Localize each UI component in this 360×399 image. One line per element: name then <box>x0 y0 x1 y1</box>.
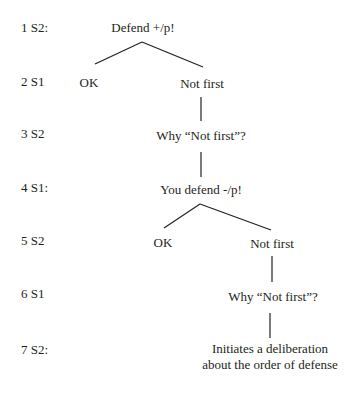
node-ok-2: OK <box>154 235 173 251</box>
node-why-not-first-1: Why “Not first”? <box>156 128 246 144</box>
edge-n1-n2b <box>142 42 203 67</box>
edge-n4-n5b <box>200 204 271 230</box>
row-label-2: 2 S1 <box>21 74 44 90</box>
row-label-6: 6 S1 <box>21 286 44 302</box>
row-label-7: 7 S2: <box>21 342 48 358</box>
node-ok-1: OK <box>80 75 99 91</box>
node-defend-p: Defend +/p! <box>111 20 174 36</box>
node-you-defend-p: You defend -/p! <box>160 182 242 198</box>
node-initiates-line-2: about the order of defense <box>202 357 338 373</box>
node-why-not-first-2: Why “Not first”? <box>228 289 318 305</box>
dialogue-tree-diagram: 1 S2: 2 S1 3 S2 4 S1: 5 S2 6 S1 7 S2: De… <box>0 0 360 399</box>
edge-n4-n5a <box>164 204 200 228</box>
row-label-5: 5 S2 <box>21 233 44 249</box>
node-initiates-line-1: Initiates a deliberation <box>202 341 338 357</box>
edge-n1-n2a <box>95 42 142 64</box>
node-initiates-deliberation: Initiates a deliberation about the order… <box>202 341 338 373</box>
row-label-1: 1 S2: <box>21 20 48 36</box>
tree-edges <box>0 0 360 399</box>
node-not-first-1: Not first <box>180 76 224 92</box>
row-label-3: 3 S2 <box>21 126 44 142</box>
node-not-first-2: Not first <box>250 236 294 252</box>
row-label-4: 4 S1: <box>21 180 48 196</box>
